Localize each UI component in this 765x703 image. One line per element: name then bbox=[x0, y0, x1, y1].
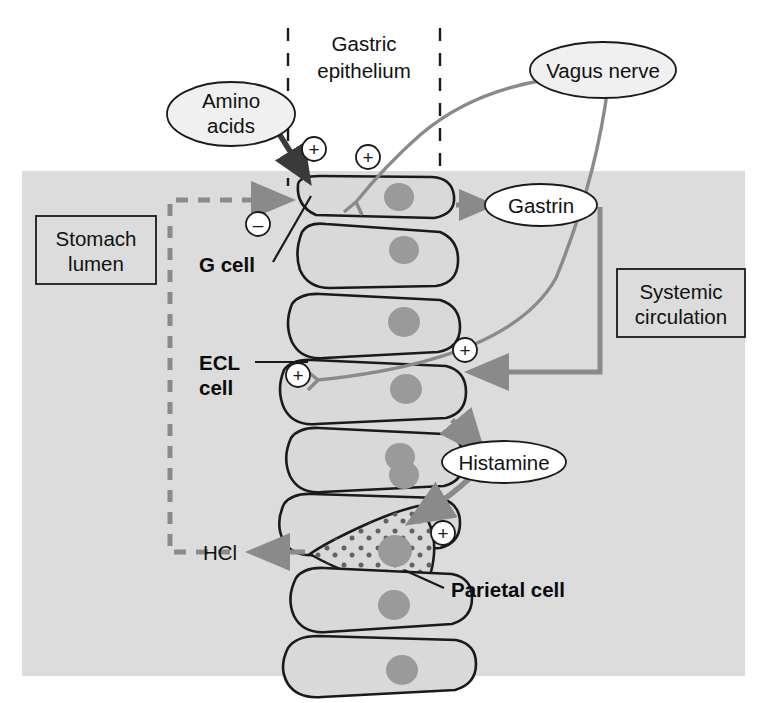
sign-hcl-feedback-minus: – bbox=[246, 212, 270, 236]
epithelial-cell-8 bbox=[290, 568, 472, 632]
sign-gastrin-ecl-plus-glyph: + bbox=[459, 340, 470, 361]
epithelial-cell-column bbox=[279, 176, 476, 697]
sign-amino-acids-plus-glyph: + bbox=[308, 139, 319, 160]
stomach-lumen-label-line1: Stomach bbox=[56, 227, 137, 250]
epithelial-cell-8-nucleus bbox=[378, 590, 410, 620]
vagus-nerve-label: Vagus nerve bbox=[546, 59, 660, 82]
vagus-nerve-node[interactable]: Vagus nerve bbox=[530, 42, 676, 98]
epithelial-cell-9 bbox=[283, 636, 476, 697]
gastric-acid-regulation-diagram: Amino acids Vagus nerve Gastrin Histamin… bbox=[0, 0, 765, 703]
gastrin-node[interactable]: Gastrin bbox=[485, 184, 597, 226]
histamine-node[interactable]: Histamine bbox=[442, 441, 566, 483]
g-cell-label: G cell bbox=[199, 253, 255, 276]
sign-histamine-parietal-plus-glyph: + bbox=[437, 523, 448, 544]
stomach-lumen-label-line2: lumen bbox=[68, 252, 124, 275]
sign-vagus-ecl-plus: + bbox=[286, 363, 310, 387]
systemic-circulation-label-line1: Systemic bbox=[639, 280, 722, 303]
epithelial-cell-2 bbox=[297, 224, 458, 288]
systemic-circulation-label-line2: circulation bbox=[635, 305, 727, 328]
sign-vagus-ecl-plus-glyph: + bbox=[292, 365, 303, 386]
ecl-cell-label-line2: cell bbox=[199, 376, 233, 399]
gastric-epithelium-label-line2: epithelium bbox=[317, 59, 410, 82]
ecl-cell-label-line1: ECL bbox=[199, 351, 240, 374]
sign-amino-acids-plus: + bbox=[302, 137, 326, 161]
hcl-label: HCl bbox=[203, 541, 237, 564]
diagram-canvas: Amino acids Vagus nerve Gastrin Histamin… bbox=[0, 0, 765, 703]
ecl-cell-nucleus bbox=[390, 374, 422, 404]
amino-acids-label-line2: acids bbox=[207, 114, 255, 137]
epithelial-cell-3 bbox=[288, 294, 460, 358]
amino-acids-label-line1: Amino bbox=[202, 89, 260, 112]
sign-vagus-g-cell-plus-glyph: + bbox=[362, 147, 373, 168]
epithelial-cell-2-nucleus bbox=[389, 236, 419, 264]
gastrin-label: Gastrin bbox=[508, 194, 574, 217]
sign-hcl-feedback-minus-glyph: – bbox=[253, 214, 264, 235]
histamine-label: Histamine bbox=[458, 451, 549, 474]
sign-gastrin-ecl-plus: + bbox=[453, 338, 477, 362]
g-cell-nucleus bbox=[384, 183, 414, 211]
epithelial-cell-3-nucleus bbox=[388, 307, 420, 337]
systemic-circulation-box: Systemic circulation bbox=[617, 269, 745, 337]
parietal-cell-nucleus bbox=[378, 535, 412, 567]
sign-vagus-g-cell-plus: + bbox=[356, 145, 380, 169]
stomach-lumen-box: Stomach lumen bbox=[36, 216, 156, 284]
g-cell bbox=[298, 176, 454, 218]
epithelial-cell-6-nucleus bbox=[389, 461, 419, 489]
sign-histamine-parietal-plus: + bbox=[431, 521, 455, 545]
parietal-cell-label: Parietal cell bbox=[451, 578, 565, 601]
amino-acids-node[interactable]: Amino acids bbox=[167, 82, 295, 146]
gastric-epithelium-label-line1: Gastric bbox=[332, 32, 397, 55]
epithelial-cell-5 bbox=[286, 428, 464, 492]
epithelial-cell-9-nucleus bbox=[386, 655, 418, 685]
